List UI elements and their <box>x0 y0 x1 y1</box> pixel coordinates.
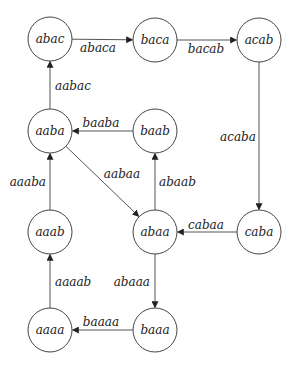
node-baca: baca <box>133 18 177 62</box>
edge-label-aaaab: aaaab <box>55 275 91 289</box>
node-baaa: baaa <box>133 308 177 352</box>
state-graph: abacbacaacabaababaabaaababaacabaaaaabaaa… <box>0 0 293 366</box>
edge-label-baaba: baaba <box>83 116 120 130</box>
diagram-canvas: abacbacaacabaababaabaaababaacabaaaaabaaa… <box>0 0 293 366</box>
node-label: caba <box>245 225 274 239</box>
edge-label-acaba: acaba <box>220 130 256 144</box>
node-baab: baab <box>133 109 177 153</box>
node-aaba: aaba <box>28 109 72 153</box>
node-label: acab <box>245 33 274 47</box>
node-abaa: abaa <box>133 210 177 254</box>
node-label: baab <box>140 124 170 138</box>
node-label: aaba <box>35 124 64 138</box>
edge-aaba-to-abaa <box>66 146 139 216</box>
node-label: aaab <box>35 225 64 239</box>
edge-label-aabaa: aabaa <box>104 167 140 181</box>
edge-label-abaab: abaab <box>159 175 196 189</box>
node-aaab: aaab <box>28 210 72 254</box>
node-label: aaaa <box>36 323 65 337</box>
node-label: abaa <box>140 225 169 239</box>
edge-label-cabaa: cabaa <box>188 218 224 232</box>
edge-label-bacab: bacab <box>188 42 224 56</box>
edge-labels-layer: abacabacabaabacbaabaaabaaabaabacabacabaa… <box>10 41 256 329</box>
edge-label-abaca: abaca <box>80 41 116 55</box>
edge-label-aaaba: aaaba <box>10 175 46 189</box>
node-caba: caba <box>237 210 281 254</box>
node-label: abac <box>36 32 65 46</box>
node-abac: abac <box>28 17 72 61</box>
node-label: baaa <box>140 323 169 337</box>
edge-abac-to-baca <box>72 39 133 40</box>
node-label: baca <box>141 33 170 47</box>
node-acab: acab <box>237 18 281 62</box>
edge-label-aabac: aabac <box>55 79 91 93</box>
node-aaaa: aaaa <box>28 308 72 352</box>
edge-label-baaaa: baaaa <box>83 315 119 329</box>
edge-label-abaaa: abaaa <box>114 275 150 289</box>
